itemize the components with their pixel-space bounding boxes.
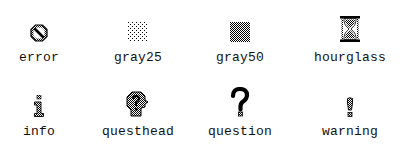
bitmap-label: gray25	[114, 51, 162, 65]
bitmap-label: error	[19, 51, 59, 65]
hourglass-icon	[340, 16, 360, 42]
bitmap-cell-info: info	[0, 85, 89, 139]
bitmap-cell-error: error	[0, 12, 89, 65]
bitmap-label: questhead	[102, 125, 174, 139]
warning-icon	[345, 97, 355, 117]
bitmap-cell-questhead: questhead	[88, 85, 188, 139]
questhead-icon	[125, 91, 151, 117]
bitmap-cell-gray50: gray50	[190, 12, 290, 65]
bitmap-label: warning	[322, 125, 378, 139]
gray25-icon	[128, 22, 148, 42]
bitmap-label: question	[208, 125, 272, 139]
question-icon	[230, 87, 250, 117]
gray50-icon	[230, 22, 250, 42]
bitmap-cell-hourglass: hourglass	[300, 12, 400, 65]
bitmap-label: gray50	[216, 51, 264, 65]
bitmap-cell-warning: warning	[300, 85, 400, 139]
bitmap-cell-gray25: gray25	[88, 12, 188, 65]
bitmap-label: hourglass	[314, 51, 386, 65]
bitmap-label: info	[23, 125, 55, 139]
bitmap-cell-question: question	[190, 85, 290, 139]
info-icon	[33, 95, 45, 117]
error-icon	[30, 24, 48, 42]
